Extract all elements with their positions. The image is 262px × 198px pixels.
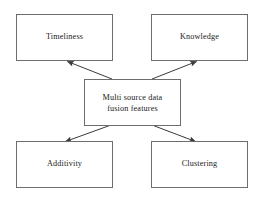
node-multi-source-data-fusion-features[interactable]: Multi source data fusion features: [84, 79, 181, 126]
edge-center-to-clustering: [152, 125, 196, 142]
edge-center-to-knowledge: [152, 62, 197, 80]
node-clustering-label: Clustering: [182, 159, 218, 170]
node-additivity-label: Additivity: [47, 159, 82, 170]
edge-center-to-timeliness: [68, 62, 113, 80]
diagram-canvas: Timeliness Knowledge Multi source data f…: [0, 0, 262, 198]
node-center-label: Multi source data fusion features: [103, 92, 163, 114]
node-clustering[interactable]: Clustering: [151, 141, 248, 188]
edge-center-to-additivity: [66, 125, 112, 142]
node-knowledge-label: Knowledge: [180, 32, 219, 43]
node-knowledge[interactable]: Knowledge: [151, 14, 248, 61]
node-additivity[interactable]: Additivity: [16, 141, 113, 188]
node-timeliness-label: Timeliness: [46, 32, 83, 43]
node-timeliness[interactable]: Timeliness: [16, 14, 113, 61]
